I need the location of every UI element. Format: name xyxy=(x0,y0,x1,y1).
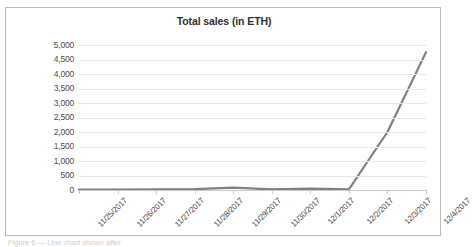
gridline-3500 xyxy=(79,89,426,90)
x-axis-line xyxy=(79,190,426,191)
gridline-2500 xyxy=(79,118,426,119)
x-axis-tick-label: 11/27/2017 xyxy=(173,196,206,229)
y-axis-tick-label: 0 xyxy=(26,186,74,195)
x-axis-tick-label: 11/29/2017 xyxy=(250,196,283,229)
x-axis-tick-label: 12/1/2017 xyxy=(326,196,356,226)
x-axis-tick-label: 11/25/2017 xyxy=(96,196,129,229)
y-axis-tick-label: 5,000 xyxy=(26,41,74,50)
x-axis-tick xyxy=(272,190,273,194)
x-axis-tick xyxy=(79,190,80,194)
x-axis-labels: 11/25/201711/26/201711/27/201711/28/2017… xyxy=(6,194,442,239)
chart-title: Total sales (in ETH) xyxy=(6,15,442,27)
gridline-2000 xyxy=(79,132,426,133)
gridline-3000 xyxy=(79,103,426,104)
gridline-1500 xyxy=(79,147,426,148)
x-axis-tick-label: 12/2/2017 xyxy=(365,196,395,226)
y-axis-labels: 05001,0001,5002,0002,5003,0003,5004,0004… xyxy=(24,45,74,190)
plot-area xyxy=(79,45,426,190)
x-axis-tick xyxy=(195,190,196,194)
y-axis-tick-label: 4,000 xyxy=(26,70,74,79)
x-axis-tick xyxy=(349,190,350,194)
y-axis-tick-label: 2,500 xyxy=(26,113,74,122)
gridline-1000 xyxy=(79,161,426,162)
y-axis-tick-label: 1,500 xyxy=(26,142,74,151)
y-axis-tick-label: 3,000 xyxy=(26,99,74,108)
y-axis-tick-label: 500 xyxy=(26,171,74,180)
y-axis-tick-label: 4,500 xyxy=(26,55,74,64)
gridline-500 xyxy=(79,176,426,177)
gridline-5000 xyxy=(79,45,426,46)
gridline-4500 xyxy=(79,60,426,61)
gridline-4000 xyxy=(79,74,426,75)
chart-frame: Total sales (in ETH) 05001,0001,5002,000… xyxy=(5,7,441,236)
y-axis-tick-label: 3,500 xyxy=(26,84,74,93)
y-axis-tick-label: 2,000 xyxy=(26,128,74,137)
x-axis-tick-label: 11/26/2017 xyxy=(135,196,168,229)
y-axis-tick-label: 1,000 xyxy=(26,157,74,166)
x-axis-tick-label: 12/3/2017 xyxy=(403,196,433,226)
series-polyline xyxy=(79,52,426,189)
x-axis-tick xyxy=(156,190,157,194)
x-axis-tick-label: 12/4/2017 xyxy=(442,196,472,226)
caption-ghost-text: Figure 6 — Line chart shown after xyxy=(8,238,248,247)
x-axis-tick xyxy=(426,190,427,194)
x-axis-tick xyxy=(387,190,388,194)
x-axis-tick xyxy=(233,190,234,194)
x-axis-tick xyxy=(310,190,311,194)
x-axis-tick-label: 11/28/2017 xyxy=(212,196,245,229)
x-axis-tick-label: 11/30/2017 xyxy=(289,196,322,229)
x-axis-tick xyxy=(118,190,119,194)
